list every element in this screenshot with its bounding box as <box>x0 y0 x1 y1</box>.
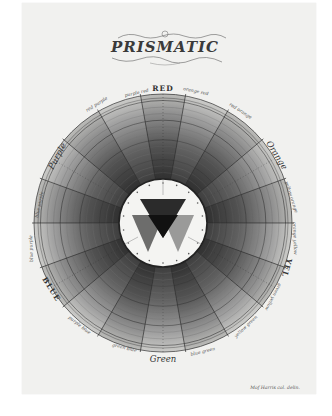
label-green: Green <box>150 354 176 364</box>
prismatic-color-wheel: PRISMATIC RED purple red red purple oran… <box>0 0 332 416</box>
plate-title: PRISMATIC <box>110 38 219 56</box>
flourish-icon <box>162 31 168 37</box>
center-disk <box>119 179 207 267</box>
label-orange-red: orange red <box>183 86 209 97</box>
label-blue-purple: blue purple <box>28 235 34 262</box>
title-cartouche: PRISMATIC <box>110 31 226 65</box>
label-red: RED <box>152 84 173 93</box>
engraver-signature: Mof Harris col. delin. <box>249 385 300 390</box>
